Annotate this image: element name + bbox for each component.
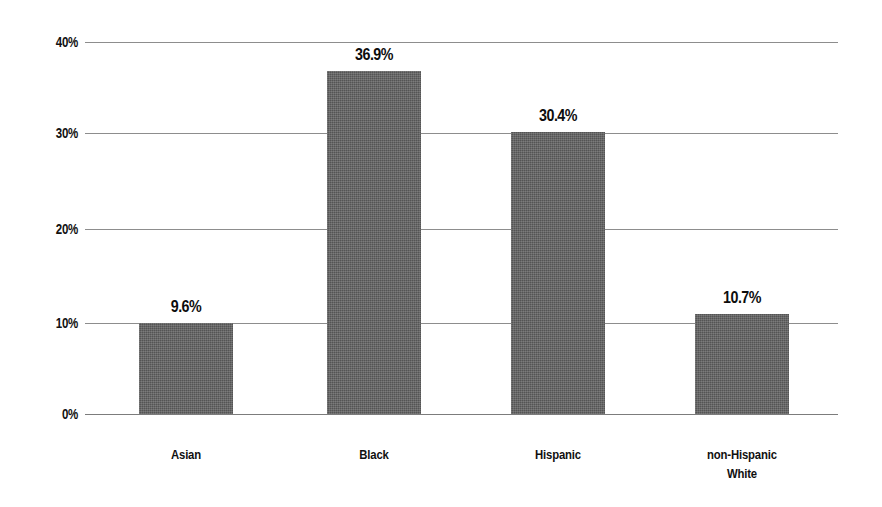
bar-chart: 40% 30% 20% 10% 0% 9.6% 36.9% 30.4% 10.7…	[0, 0, 882, 507]
bar-black[interactable]	[327, 71, 421, 414]
bar-asian[interactable]	[139, 323, 233, 414]
category-label-asian: Asian	[115, 445, 258, 464]
category-label-non-hispanic-white: non-Hispanic White	[671, 445, 814, 483]
bar-non-hispanic-white[interactable]	[695, 314, 789, 414]
category-label-black: Black	[303, 445, 446, 464]
value-label-hispanic: 30.4%	[508, 106, 609, 126]
bar-hispanic[interactable]	[511, 132, 605, 414]
value-label-asian: 9.6%	[136, 297, 237, 317]
value-label-non-hispanic-white: 10.7%	[692, 288, 793, 308]
category-label-hispanic: Hispanic	[487, 445, 630, 464]
value-label-black: 36.9%	[324, 45, 425, 65]
bars-layer	[0, 0, 882, 507]
